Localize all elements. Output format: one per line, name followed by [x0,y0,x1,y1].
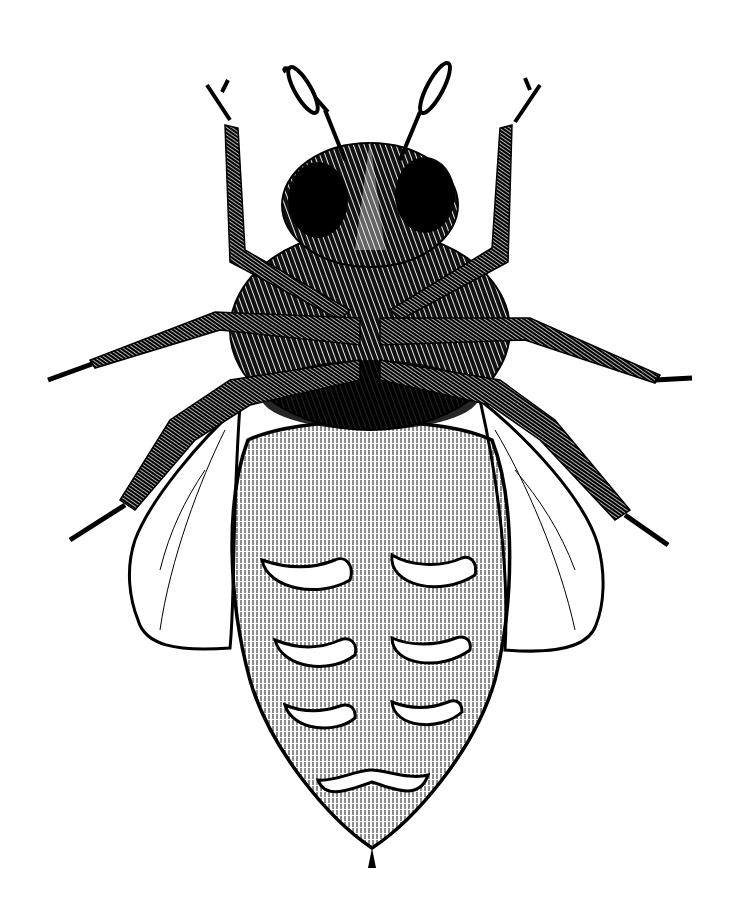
abdomen [232,421,510,868]
right-eye [395,157,455,233]
illustration-canvas [0,0,741,911]
head [282,140,458,267]
left-eye [288,162,348,238]
bee-illustration [0,0,741,911]
stinger [368,848,376,868]
